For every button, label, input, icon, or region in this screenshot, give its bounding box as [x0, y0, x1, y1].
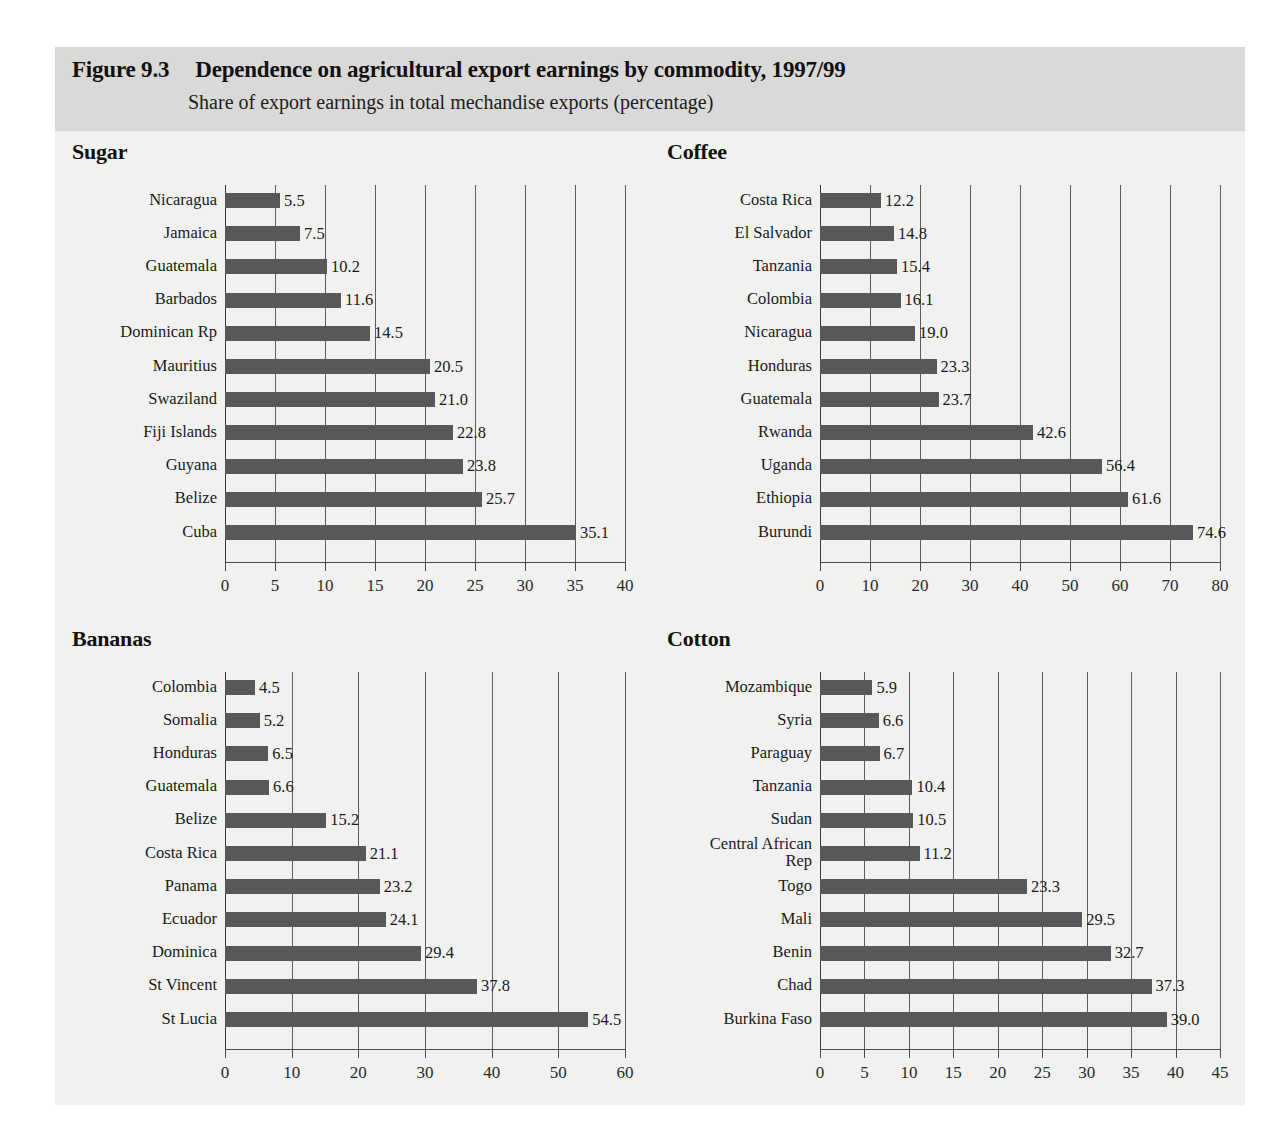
axis-tick	[909, 1049, 910, 1058]
axis-tick-label: 25	[1034, 1063, 1051, 1083]
axis-tick-label: 10	[862, 576, 879, 596]
axis-tick-label: 10	[900, 1063, 917, 1083]
plot-area: 051015202530354045Mozambique5.9Syria6.6P…	[650, 672, 1245, 1092]
axis-tick-label: 5	[271, 576, 280, 596]
axis-tick	[425, 1049, 426, 1058]
bar	[820, 979, 1152, 994]
axis-tick	[1070, 562, 1071, 571]
category-label: Dominican Rp	[65, 323, 217, 341]
bar	[225, 392, 435, 407]
category-label: Uganda	[660, 456, 812, 474]
axis-tick	[492, 1049, 493, 1058]
bar-value-label: 12.2	[885, 191, 914, 211]
axis-tick-label: 40	[1012, 576, 1029, 596]
bar-value-label: 37.3	[1156, 976, 1185, 996]
category-label: Costa Rica	[65, 844, 217, 862]
axis-baseline	[225, 562, 625, 563]
category-label: Honduras	[65, 744, 217, 762]
category-label: Paraguay	[660, 744, 812, 762]
bar	[820, 1012, 1167, 1027]
bar	[820, 392, 939, 407]
bar	[820, 713, 879, 728]
bar-value-label: 24.1	[390, 910, 419, 930]
bar-value-label: 32.7	[1115, 943, 1144, 963]
bar	[225, 946, 421, 961]
axis-tick	[820, 1049, 821, 1058]
bar	[225, 193, 280, 208]
bar	[820, 813, 913, 828]
figure-container: Figure 9.3 Dependence on agricultural ex…	[55, 47, 1245, 1105]
bar	[225, 713, 260, 728]
panel-title: Bananas	[72, 626, 151, 652]
bar-value-label: 23.3	[1031, 877, 1060, 897]
category-label: Chad	[660, 976, 812, 994]
category-label: Colombia	[660, 290, 812, 308]
axis-tick-label: 40	[483, 1063, 500, 1083]
bar-value-label: 21.1	[370, 844, 399, 864]
gridline	[525, 185, 526, 562]
axis-tick-label: 30	[517, 576, 534, 596]
axis-tick-label: 0	[816, 1063, 825, 1083]
category-label: Benin	[660, 943, 812, 961]
category-label: Tanzania	[660, 257, 812, 275]
gridline	[575, 185, 576, 562]
bar	[820, 293, 901, 308]
category-label: Central African Rep	[660, 835, 812, 871]
category-label: Panama	[65, 877, 217, 895]
axis-tick	[1120, 562, 1121, 571]
bar	[820, 846, 920, 861]
axis-tick-label: 25	[467, 576, 484, 596]
figure-title-row: Figure 9.3 Dependence on agricultural ex…	[72, 57, 846, 83]
category-label: Jamaica	[65, 224, 217, 242]
bar	[225, 879, 380, 894]
category-label: Belize	[65, 810, 217, 828]
category-label: Rwanda	[660, 423, 812, 441]
bar-value-label: 74.6	[1197, 523, 1226, 543]
axis-tick	[1042, 1049, 1043, 1058]
bar	[225, 979, 477, 994]
bar-value-label: 22.8	[457, 423, 486, 443]
bar	[820, 946, 1111, 961]
bar-value-label: 10.5	[917, 810, 946, 830]
chart-panel-coffee: Coffee01020304050607080Costa Rica12.2El …	[650, 131, 1245, 618]
bar-value-label: 15.4	[901, 257, 930, 277]
category-label: Dominica	[65, 943, 217, 961]
axis-tick	[575, 562, 576, 571]
axis-tick-label: 35	[1123, 1063, 1140, 1083]
axis-tick-label: 20	[912, 576, 929, 596]
bar	[820, 680, 872, 695]
category-label: Guatemala	[65, 777, 217, 795]
bar	[820, 193, 881, 208]
bar	[225, 326, 370, 341]
bar-value-label: 6.6	[273, 777, 294, 797]
category-label: Guyana	[65, 456, 217, 474]
axis-tick	[292, 1049, 293, 1058]
bar-value-label: 6.5	[272, 744, 293, 764]
chart-panel-cotton: Cotton051015202530354045Mozambique5.9Syr…	[650, 618, 1245, 1105]
bar	[225, 813, 326, 828]
figure-number: Figure 9.3	[72, 57, 169, 83]
bar-value-label: 61.6	[1132, 489, 1161, 509]
axis-tick-label: 45	[1212, 1063, 1229, 1083]
axis-tick	[820, 562, 821, 571]
category-label: Honduras	[660, 357, 812, 375]
bar-value-label: 37.8	[481, 976, 510, 996]
bar-value-label: 11.6	[345, 290, 373, 310]
axis-tick	[870, 562, 871, 571]
axis-tick	[1020, 562, 1021, 571]
bar-value-label: 14.5	[374, 323, 403, 343]
axis-tick	[625, 1049, 626, 1058]
axis-tick	[920, 562, 921, 571]
axis-tick	[1170, 562, 1171, 571]
axis-tick-label: 60	[1112, 576, 1129, 596]
category-label: Guatemala	[660, 390, 812, 408]
bar	[820, 492, 1128, 507]
category-label: St Vincent	[65, 976, 217, 994]
bar-value-label: 35.1	[580, 523, 609, 543]
axis-tick-label: 0	[221, 1063, 230, 1083]
category-label: Barbados	[65, 290, 217, 308]
axis-tick-label: 50	[550, 1063, 567, 1083]
bar-value-label: 23.2	[384, 877, 413, 897]
bar	[225, 1012, 588, 1027]
axis-tick	[953, 1049, 954, 1058]
